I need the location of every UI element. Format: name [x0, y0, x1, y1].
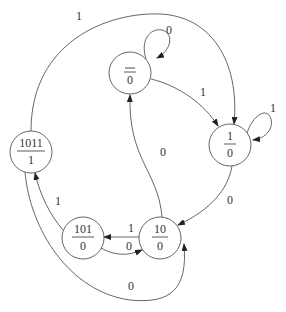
state-output: 0 [157, 239, 163, 253]
edge-label: 0 [126, 239, 132, 253]
state-name: 1 [227, 129, 233, 143]
state-name: 101 [74, 222, 92, 236]
edge-label: 1 [200, 85, 206, 99]
edge-0-to-1 [151, 79, 218, 126]
state-name: 1011 [19, 136, 43, 150]
state-diagram: 1 0 1 1 0 0 1 0 1 0 0 1 0 10 0 [0, 0, 286, 312]
state-output: 0 [227, 146, 233, 160]
state-output: 0 [80, 239, 86, 253]
edge-label: 0 [160, 145, 166, 159]
state-name: 10 [154, 222, 166, 236]
edge-label: 1 [128, 221, 134, 235]
edge-1-self [247, 113, 272, 140]
state-1: 1 0 [209, 124, 251, 166]
edge-10-to-0 [130, 95, 162, 217]
edge-101-to-10 [101, 248, 142, 254]
state-10: 10 0 [139, 217, 181, 259]
state-output: 1 [28, 153, 34, 167]
state-output: 0 [127, 73, 133, 87]
state-1011: 1011 1 [10, 131, 52, 173]
edge-label: 1 [76, 9, 82, 23]
edge-label: 0 [166, 23, 172, 37]
state-0: 0 [109, 52, 151, 94]
edge-label: 0 [128, 279, 134, 293]
edge-label: 1 [270, 101, 276, 115]
state-101: 101 0 [62, 217, 104, 259]
edge-1-to-10 [178, 166, 232, 225]
edge-label: 0 [227, 193, 233, 207]
edge-label: 1 [55, 194, 61, 208]
